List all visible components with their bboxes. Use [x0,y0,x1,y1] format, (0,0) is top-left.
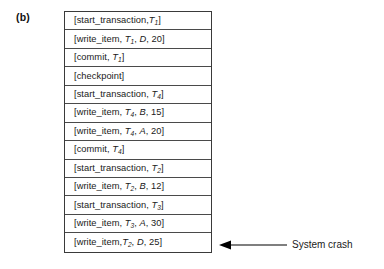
log-entry-row: [write_item, T4, A, 20] [65,123,211,141]
log-entry-text: [write_item, T3, A, 30] [74,218,164,229]
log-entry-row: [write_item,T2, D, 25] [65,233,211,251]
log-entry-text: [start_transaction, T2] [74,163,164,174]
log-entry-text: [write_item, T2, B, 12] [74,181,164,192]
log-entry-text: [write_item, T4, B, 15] [74,107,164,118]
log-entry-row: [write_item, T4, B, 15] [65,104,211,122]
log-entry-text: [write_item, T1, D, 20] [74,34,165,45]
left-arrow-icon [216,239,288,251]
log-entry-row: [write_item, T1, D, 20] [65,30,211,48]
figure-container: (b) [start_transaction,T1][write_item, T… [0,0,384,269]
log-entry-row: [start_transaction, T4] [65,86,211,104]
log-entry-text: [write_item,T2, D, 25] [74,237,162,248]
panel-label: (b) [16,11,30,23]
log-entry-row: [commit, T4] [65,141,211,159]
log-entry-row: [commit, T1] [65,49,211,67]
log-entry-row: [write_item, T3, A, 30] [65,215,211,233]
transaction-log-table: [start_transaction,T1][write_item, T1, D… [64,11,212,253]
log-entry-row: [start_transaction, T2] [65,160,211,178]
log-entry-row: [start_transaction, T3] [65,196,211,214]
system-crash-label: System crash [292,239,353,251]
log-entry-text: [write_item, T4, A, 20] [74,126,164,137]
log-entry-text: [commit, T1] [74,52,124,63]
log-entry-row: [checkpoint] [65,67,211,85]
log-entry-text: [commit, T4] [74,144,124,155]
log-entry-text: [checkpoint] [74,71,124,81]
log-entry-text: [start_transaction, T4] [74,89,164,100]
log-entry-row: [start_transaction,T1] [65,12,211,30]
log-entry-text: [start_transaction,T1] [74,15,161,26]
log-entry-text: [start_transaction, T3] [74,200,164,211]
log-entry-row: [write_item, T2, B, 12] [65,178,211,196]
system-crash-annotation: System crash [216,236,384,254]
